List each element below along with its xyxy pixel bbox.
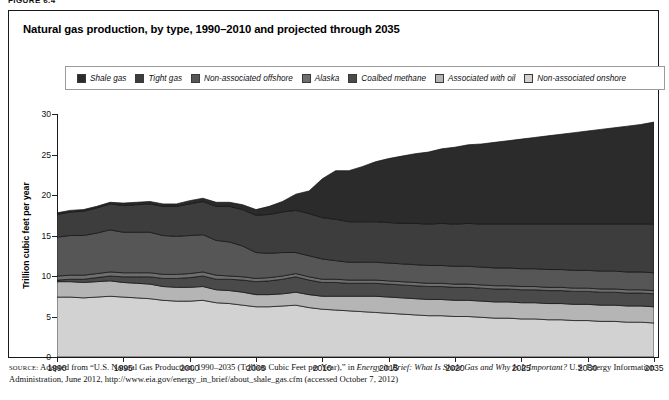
legend-item: Non-associated offshore xyxy=(191,74,293,83)
source-text-a: Adapted from “U.S. Natural Gas Productio… xyxy=(38,362,356,372)
running-head: FIGURE 6.4 xyxy=(8,0,128,4)
figure-page: FIGURE 6.4 Natural gas production, by ty… xyxy=(0,0,669,400)
y-axis-tick-mark xyxy=(52,236,57,237)
y-axis-tick-mark xyxy=(52,276,57,277)
legend-item-label: Associated with oil xyxy=(448,74,515,83)
legend-swatch-icon xyxy=(524,74,533,83)
source-label: SOURCE: xyxy=(9,364,38,371)
legend-item-label: Non-associated onshore xyxy=(537,74,626,83)
chart-legend: Shale gasTight gasNon-associated offshor… xyxy=(65,66,665,90)
y-axis-tick-mark xyxy=(52,195,57,196)
legend-item: Associated with oil xyxy=(435,74,515,83)
y-axis-tick-mark xyxy=(52,317,57,318)
legend-item: Coalbed methane xyxy=(348,74,426,83)
legend-item: Alaska xyxy=(302,74,340,83)
y-axis-tick-label: 0 xyxy=(46,352,51,362)
legend-swatch-icon xyxy=(348,74,357,83)
y-axis-tick-mark xyxy=(52,155,57,156)
legend-item-label: Shale gas xyxy=(90,74,126,83)
source-title-italic: Energy in Brief: What Is Shale Gas and W… xyxy=(357,362,567,372)
legend-item-label: Coalbed methane xyxy=(361,74,426,83)
y-axis-tick-label: 15 xyxy=(41,231,51,241)
y-axis-tick-label: 10 xyxy=(41,271,51,281)
legend-item-label: Non-associated offshore xyxy=(204,74,293,83)
y-axis-tick-label: 20 xyxy=(41,190,51,200)
source-note: SOURCE: Adapted from “U.S. Natural Gas P… xyxy=(9,362,664,385)
legend-item: Shale gas xyxy=(77,74,126,83)
y-axis-tick-label: 25 xyxy=(41,150,51,160)
legend-item-label: Tight gas xyxy=(148,74,182,83)
figure-frame: Natural gas production, by type, 1990–20… xyxy=(8,10,659,358)
legend-swatch-icon xyxy=(435,74,444,83)
stacked-area-chart xyxy=(57,114,654,357)
legend-swatch-icon xyxy=(135,74,144,83)
legend-item-label: Alaska xyxy=(315,74,340,83)
plot-area: Trillion cubic feet per year 05101520253… xyxy=(57,114,654,357)
legend-item: Tight gas xyxy=(135,74,182,83)
y-axis-tick-label: 30 xyxy=(41,109,51,119)
legend-item: Non-associated onshore xyxy=(524,74,626,83)
x-axis-line xyxy=(57,357,654,358)
page-title: Natural gas production, by type, 1990–20… xyxy=(23,23,400,35)
legend-swatch-icon xyxy=(302,74,311,83)
legend-swatch-icon xyxy=(77,74,86,83)
y-axis-tick-mark xyxy=(52,114,57,115)
y-axis-label: Trillion cubic feet per year xyxy=(19,114,33,357)
y-axis-tick-label: 5 xyxy=(46,312,51,322)
legend-swatch-icon xyxy=(191,74,200,83)
